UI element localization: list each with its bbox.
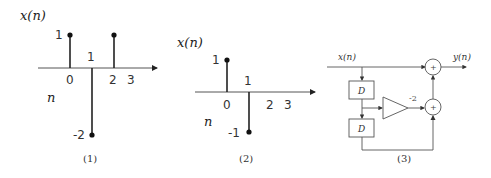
feedforward-line: [362, 116, 433, 150]
tick-label-0: 0: [66, 73, 74, 87]
input-label: x(n): [338, 52, 356, 62]
value-label: 1: [55, 28, 63, 42]
caption: (3): [397, 153, 411, 164]
adder-plus: +: [430, 63, 437, 72]
caption: (2): [239, 153, 253, 164]
gain-amplifier: [383, 97, 408, 119]
tick-label-1: 1: [244, 74, 252, 88]
value-label: 1: [212, 53, 220, 67]
x-axis-label: n: [47, 90, 55, 105]
value-label: -1: [228, 126, 240, 140]
tick-label-2: 2: [109, 73, 117, 87]
adder-plus: +: [430, 103, 437, 112]
block-diagram: x(n) y(n) + + D D -2 (3): [327, 52, 471, 164]
caption: (1): [83, 153, 97, 164]
delay-label: D: [357, 86, 365, 96]
value-label: -2: [73, 128, 85, 142]
stem-marker: [224, 57, 229, 62]
x-axis-label: n: [204, 114, 212, 129]
stem-marker: [246, 129, 251, 134]
tick-label-0: 0: [223, 98, 231, 112]
delay-label: D: [357, 124, 365, 134]
stem-plot-2: x(n) 1 1 0 2 3 n -1 (2): [177, 35, 315, 164]
tick-label-1: 1: [87, 50, 95, 64]
gain-label: -2: [409, 94, 417, 103]
y-axis-label: x(n): [20, 8, 46, 23]
tick-label-3: 3: [127, 73, 135, 87]
tick-label-2: 2: [266, 98, 274, 112]
stem-plot-1: x(n) 1 1 0 2 3 n -2 (1): [20, 8, 157, 164]
y-axis-label: x(n): [177, 35, 203, 50]
tick-label-3: 3: [284, 98, 292, 112]
output-label: y(n): [452, 52, 471, 62]
arrow-head: [431, 115, 436, 120]
stem-marker: [111, 32, 116, 37]
stem-marker: [89, 132, 94, 137]
stem-marker: [67, 32, 72, 37]
